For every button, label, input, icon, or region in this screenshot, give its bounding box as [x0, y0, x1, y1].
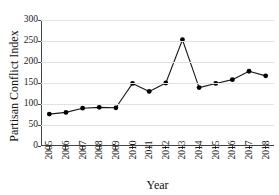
- x-tick-label: 2018: [260, 141, 271, 171]
- y-tick-label: 0: [12, 141, 38, 151]
- y-tick-mark: [38, 83, 41, 84]
- data-point-marker: 2007: 90: [80, 106, 85, 111]
- x-tick-label: 2013: [177, 141, 188, 171]
- data-point-marker: 2011: 130: [147, 89, 152, 94]
- x-tick-label: 2011: [144, 141, 155, 171]
- y-tick-mark: [38, 125, 41, 126]
- gridline: [41, 125, 274, 126]
- data-point-marker: 2005: 76: [47, 112, 52, 117]
- x-tick-label: 2005: [44, 141, 55, 171]
- x-axis-tick-labels: 2005200620072008200920102011201220132014…: [41, 146, 274, 182]
- y-tick-label: 250: [12, 36, 38, 46]
- data-point-marker: 2016: 158: [230, 77, 235, 82]
- data-point-marker: 2017: 178: [247, 69, 252, 74]
- y-axis-tick-labels: 050100150200250300: [12, 0, 38, 195]
- y-tick-label: 50: [12, 120, 38, 130]
- x-tick-label: 2015: [210, 141, 221, 171]
- y-tick-label: 300: [12, 15, 38, 25]
- data-point-marker: 2006: 80: [64, 110, 69, 115]
- x-tick-label: 2008: [94, 141, 105, 171]
- x-tick-label: 2017: [244, 141, 255, 171]
- x-tick-label: 2012: [160, 141, 171, 171]
- y-tick-mark: [38, 104, 41, 105]
- y-tick-label: 200: [12, 57, 38, 67]
- x-tick-label: 2014: [194, 141, 205, 171]
- x-tick-label: 2010: [127, 141, 138, 171]
- plot-area: 2005: 762006: 802007: 902008: 922009: 91…: [41, 20, 274, 146]
- data-point-marker: 2018: 167: [263, 73, 268, 78]
- gridline: [41, 83, 274, 84]
- y-tick-label: 150: [12, 78, 38, 88]
- gridline: [41, 62, 274, 63]
- data-point-marker: 2009: 91: [113, 105, 118, 110]
- y-tick-mark: [38, 41, 41, 42]
- gridline: [41, 20, 274, 21]
- x-tick-label: 2007: [77, 141, 88, 171]
- x-tick-label: 2016: [227, 141, 238, 171]
- chart-figure: Partisan Conflict Index 0501001502002503…: [0, 0, 279, 195]
- x-tick-label: 2006: [60, 141, 71, 171]
- gridline: [41, 104, 274, 105]
- x-axis-title: Year: [41, 178, 274, 192]
- y-tick-mark: [38, 62, 41, 63]
- data-point-marker: 2008: 92: [97, 105, 102, 110]
- y-tick-label: 100: [12, 99, 38, 109]
- x-tick-label: 2009: [110, 141, 121, 171]
- y-tick-mark: [38, 20, 41, 21]
- gridline: [41, 41, 274, 42]
- data-point-marker: 2014: 139: [197, 85, 202, 90]
